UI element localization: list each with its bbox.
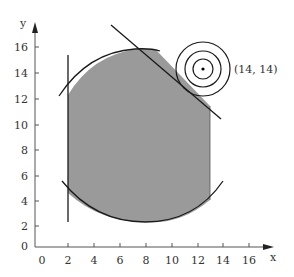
y-ticks	[35, 47, 39, 226]
y-axis-arrow-icon	[32, 22, 38, 33]
svg-text:0: 0	[21, 240, 28, 253]
svg-text:6: 6	[21, 170, 28, 183]
svg-text:2: 2	[21, 220, 28, 233]
x-axis-label: x	[270, 251, 277, 264]
feasible-region	[68, 49, 210, 223]
svg-text:16: 16	[242, 254, 256, 267]
svg-text:8: 8	[21, 144, 28, 157]
constraint-diagram: (14, 14) y x 0 2 4 6 8 10 12 14 16	[0, 0, 294, 277]
target-point	[201, 67, 204, 70]
svg-text:14: 14	[14, 67, 28, 80]
svg-text:2: 2	[65, 254, 72, 267]
svg-text:12: 12	[14, 93, 28, 106]
x-ticks	[68, 243, 249, 247]
svg-text:4: 4	[91, 254, 98, 267]
svg-text:10: 10	[165, 254, 179, 267]
diagram-canvas: (14, 14) y x 0 2 4 6 8 10 12 14 16	[0, 0, 294, 277]
svg-text:16: 16	[14, 41, 28, 54]
y-axis-label: y	[19, 17, 27, 30]
svg-text:4: 4	[21, 195, 28, 208]
svg-text:14: 14	[216, 254, 230, 267]
x-axis-arrow-icon	[263, 244, 274, 250]
target-point-label: (14, 14)	[234, 63, 278, 76]
x-tick-labels: 0 2 4 6 8 10 12 14 16	[39, 254, 257, 267]
svg-text:6: 6	[117, 254, 124, 267]
svg-text:12: 12	[191, 254, 205, 267]
svg-text:8: 8	[143, 254, 150, 267]
y-tick-labels: 0 2 4 6 8 10 12 14 16	[14, 41, 28, 253]
svg-text:10: 10	[14, 119, 28, 132]
svg-text:0: 0	[39, 254, 46, 267]
target-contours	[176, 42, 230, 96]
